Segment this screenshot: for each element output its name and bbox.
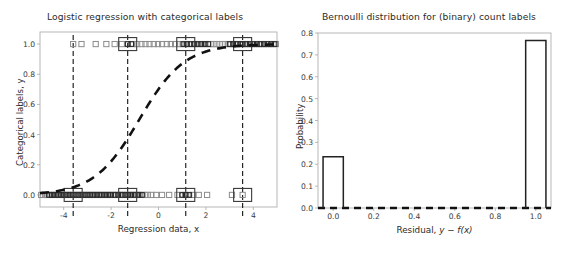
x-tick-label-right: 0.4 (408, 212, 420, 221)
axes-frame-right (318, 33, 551, 208)
panel-bernoulli: Bernoulli distribution for (binary) coun… (290, 0, 568, 254)
panel-logistic-regression: Logistic regression with categorical lab… (0, 0, 290, 254)
x-tick-label-right: 1.0 (530, 212, 542, 221)
x-tick-label-left: -2 (107, 211, 115, 220)
y-tick-label-left: 0.8 (23, 70, 35, 79)
y-tick-label-left: 0.0 (23, 190, 35, 199)
x-tick-label-right: 0.6 (449, 212, 461, 221)
x-tick-label-left: 2 (203, 211, 208, 220)
y-tick-label-left: 0.2 (23, 160, 35, 169)
y-tick-label-left: 0.6 (23, 100, 35, 109)
axes-frame-left (40, 32, 277, 207)
x-tick-label-left: 4 (251, 211, 256, 220)
y-tick-label-right: 0.1 (301, 182, 313, 191)
y-tick-label-right: 0.6 (301, 72, 313, 81)
y-tick-label-right: 0.2 (301, 160, 313, 169)
y-tick-label-left: 0.4 (23, 130, 35, 139)
y-tick-label-right: 0.7 (301, 50, 313, 59)
x-tick-label-left: 0 (156, 211, 161, 220)
y-tick-label-right: 0.8 (301, 29, 313, 38)
x-tick-label-right: 0.2 (368, 212, 380, 221)
y-tick-label-right: 0.3 (301, 138, 313, 147)
plot-area-left (0, 0, 290, 254)
y-tick-label-left: 1.0 (23, 40, 35, 49)
x-tick-label-right: 0.8 (489, 212, 501, 221)
x-tick-label-left: -4 (60, 211, 68, 220)
x-tick-label-right: 0.0 (327, 212, 339, 221)
y-tick-label-right: 0.0 (301, 204, 313, 213)
y-tick-label-right: 0.4 (301, 116, 313, 125)
figure-canvas: Logistic regression with categorical lab… (0, 0, 568, 254)
y-tick-label-right: 0.5 (301, 94, 313, 103)
